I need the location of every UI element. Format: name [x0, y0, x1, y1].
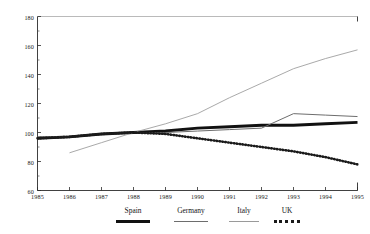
x-tick-label: 1987	[95, 193, 108, 200]
series-line-uk	[38, 133, 358, 165]
line-chart: 6080100120140160180 19851986198719881989…	[0, 0, 370, 234]
series-line-italy	[70, 50, 358, 153]
legend-label-spain: Spain	[116, 206, 150, 215]
y-tick-label: 180	[10, 13, 34, 20]
legend-label-italy: Italy	[229, 206, 259, 215]
legend-item-uk[interactable]: UK	[274, 206, 300, 223]
legend-label-uk: UK	[274, 206, 300, 215]
y-tick-label: 100	[10, 129, 34, 136]
x-tick-label: 1988	[127, 193, 140, 200]
x-tick-label: 1986	[63, 193, 76, 200]
legend-swatch-uk-icon	[274, 220, 300, 223]
x-tick-label: 1990	[191, 193, 204, 200]
chart-legend: Spain Germany Italy UK	[0, 206, 370, 234]
x-tick-label: 1991	[223, 193, 236, 200]
y-tick-label: 80	[10, 158, 34, 165]
data-series-layer	[38, 50, 358, 165]
y-tick-label: 140	[10, 71, 34, 78]
legend-item-spain[interactable]: Spain	[116, 206, 150, 223]
legend-item-germany[interactable]: Germany	[174, 206, 208, 222]
y-tick-label: 120	[10, 100, 34, 107]
axes	[38, 17, 358, 191]
x-tick-label: 1995	[351, 193, 364, 200]
legend-label-germany: Germany	[174, 206, 208, 215]
legend-swatch-spain-icon	[116, 220, 150, 223]
legend-item-italy[interactable]: Italy	[229, 206, 259, 222]
legend-swatch-germany-icon	[174, 221, 208, 222]
x-tick-label: 1994	[319, 193, 332, 200]
legend-swatch-italy-icon	[229, 221, 259, 222]
x-tick-label: 1993	[287, 193, 300, 200]
y-tick-label: 160	[10, 42, 34, 49]
x-tick-label: 1989	[159, 193, 172, 200]
x-tick-label: 1985	[31, 193, 44, 200]
plot-area	[0, 0, 370, 234]
x-tick-label: 1992	[255, 193, 268, 200]
